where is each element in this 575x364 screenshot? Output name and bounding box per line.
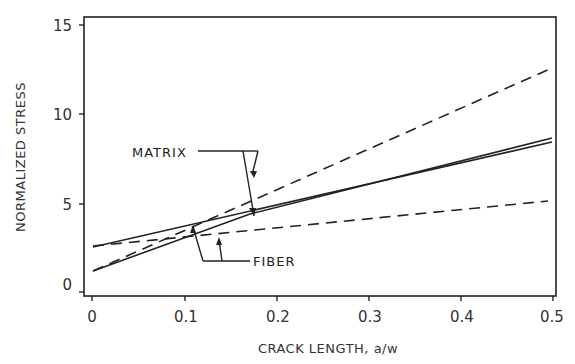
matrix-arrow-dashed-icon — [250, 171, 257, 178]
matrix-leader — [198, 151, 258, 216]
y-tick-5: 5 — [62, 196, 72, 214]
y-tick-10: 10 — [53, 106, 72, 124]
matrix-label: MATRIX — [132, 145, 187, 160]
fiber-arrow-dashed-icon — [216, 237, 222, 245]
y-tick-15: 15 — [53, 17, 72, 35]
matrix-dashed-line — [93, 68, 552, 271]
x-tick-0-3: 0.3 — [358, 308, 382, 326]
fiber-label: FIBER — [253, 254, 295, 269]
y-axis-title: NORMALIZED STRESS — [13, 82, 28, 232]
chart-canvas: 15 10 5 0 0 0.1 0.2 0.3 0.4 0.5 CRACK LE… — [0, 0, 575, 364]
x-tick-0-1: 0.1 — [174, 308, 198, 326]
x-tick-0-5: 0.5 — [540, 308, 564, 326]
x-tick-0: 0 — [87, 308, 97, 326]
y-tick-0: 0 — [62, 276, 72, 294]
fiber-dashed-line — [93, 201, 548, 246]
x-tick-0-2: 0.2 — [266, 308, 290, 326]
x-axis-title: CRACK LENGTH, a/w — [258, 341, 398, 356]
x-tick-0-4: 0.4 — [450, 308, 474, 326]
